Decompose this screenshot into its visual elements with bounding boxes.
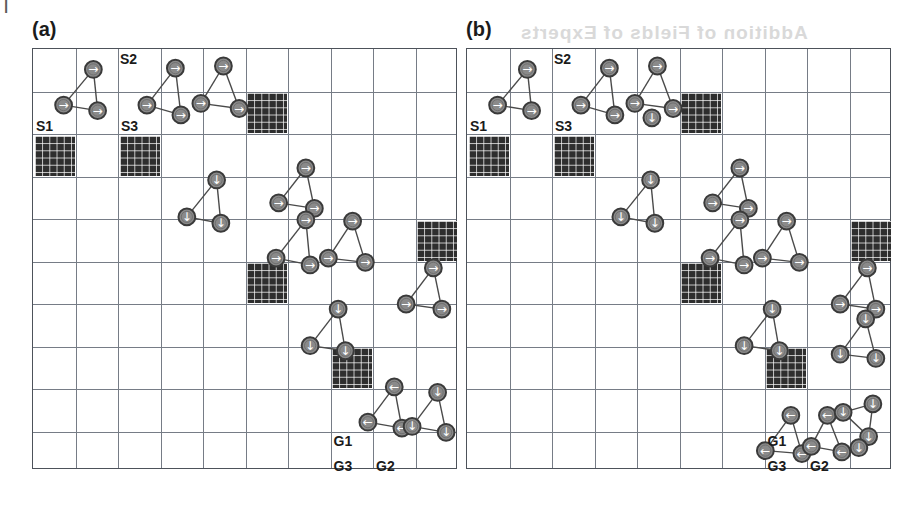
- robot-agent[interactable]: →: [665, 100, 682, 117]
- robot-agent[interactable]: →: [215, 58, 232, 75]
- robot-agent[interactable]: →: [607, 106, 624, 123]
- robot-agent[interactable]: →: [344, 213, 361, 230]
- robot-heading-arrow-icon: →: [493, 98, 503, 112]
- cell-label-g1: G1: [334, 434, 353, 448]
- robot-agent[interactable]: ↓: [330, 301, 347, 318]
- robot-heading-arrow-icon: ↓: [739, 339, 749, 353]
- robot-agent[interactable]: →: [832, 296, 849, 313]
- robot-agent[interactable]: ↓: [178, 208, 195, 225]
- robot-agent[interactable]: →: [167, 60, 184, 77]
- robot-agent[interactable]: ↓: [867, 350, 884, 367]
- robot-agent[interactable]: ↓: [646, 215, 663, 232]
- robot-agent[interactable]: →: [320, 250, 337, 267]
- robot-agent[interactable]: →: [523, 102, 540, 119]
- robot-agent[interactable]: ↓: [864, 395, 881, 412]
- robot-heading-arrow-icon: ↓: [861, 312, 871, 326]
- robot-agent[interactable]: ↓: [302, 337, 319, 354]
- robot-agent[interactable]: ↓: [429, 384, 446, 401]
- robot-heading-arrow-icon: →: [735, 213, 745, 227]
- robot-heading-arrow-icon: →: [610, 108, 620, 122]
- robot-agent[interactable]: →: [573, 97, 590, 114]
- robot-agent[interactable]: →: [601, 60, 618, 77]
- robot-agent[interactable]: →: [231, 100, 248, 117]
- robot-agent[interactable]: ↓: [857, 310, 874, 327]
- robot-agent[interactable]: →: [754, 250, 771, 267]
- robot-heading-arrow-icon: →: [301, 213, 311, 227]
- robot-heading-arrow-icon: →: [604, 61, 614, 75]
- robot-agent[interactable]: →: [649, 58, 666, 75]
- panel-b-grid[interactable]: →→→→→→→→→↓↓↓↓→→→→→→→→→→→→↓↓↓↓↓↓←←←←←←↓↓↓…: [466, 48, 891, 469]
- robot-agent[interactable]: ↓: [771, 342, 788, 359]
- robot-agent[interactable]: →: [489, 97, 506, 114]
- robot-agent[interactable]: →: [139, 97, 156, 114]
- robot-agent[interactable]: ←: [360, 414, 377, 431]
- robot-agent[interactable]: →: [778, 213, 795, 230]
- robot-agent[interactable]: →: [791, 254, 808, 271]
- robot-agent[interactable]: ←: [819, 407, 836, 424]
- robot-heading-arrow-icon: →: [705, 251, 715, 265]
- robot-agent[interactable]: ↓: [612, 208, 629, 225]
- robot-agent[interactable]: ↓: [212, 215, 229, 232]
- cell-label-g2: G2: [810, 459, 829, 473]
- robot-agent[interactable]: ←: [386, 378, 403, 395]
- panel-a-grid-wrap: →→→→→→→→→↓↓↓→→→→→→→→→→→→↓↓↓←←←↓↓↓S2S1S3G…: [32, 48, 457, 469]
- robot-heading-arrow-icon: →: [348, 214, 358, 228]
- robot-heading-arrow-icon: →: [170, 61, 180, 75]
- robot-agent[interactable]: ↓: [764, 301, 781, 318]
- robot-heading-arrow-icon: ↓: [647, 111, 657, 125]
- robot-agent[interactable]: →: [302, 257, 319, 274]
- robot-agent[interactable]: →: [398, 296, 415, 313]
- robot-agent[interactable]: →: [704, 194, 721, 211]
- robot-agent[interactable]: →: [626, 95, 643, 112]
- robot-agent[interactable]: ↓: [850, 439, 867, 456]
- cell-label-s3: S3: [121, 119, 138, 133]
- robot-agent[interactable]: →: [55, 97, 72, 114]
- robot-agent[interactable]: →: [173, 106, 190, 123]
- robot-heading-arrow-icon: ↓: [216, 216, 226, 230]
- robot-heading-arrow-icon: →: [271, 251, 281, 265]
- robot-heading-arrow-icon: ↓: [767, 302, 777, 316]
- robot-agent[interactable]: →: [736, 257, 753, 274]
- robot-agent[interactable]: →: [192, 95, 209, 112]
- robot-agent[interactable]: ↓: [208, 172, 225, 189]
- robot-heading-arrow-icon: ↓: [407, 419, 417, 433]
- robot-agent[interactable]: →: [270, 194, 287, 211]
- robot-agent[interactable]: →: [297, 211, 314, 228]
- robot-agent[interactable]: →: [859, 259, 876, 276]
- robot-agent[interactable]: →: [357, 254, 374, 271]
- robot-agent[interactable]: ←: [833, 444, 850, 461]
- robot-agent[interactable]: →: [519, 61, 536, 78]
- robot-heading-arrow-icon: →: [59, 98, 69, 112]
- robot-agent[interactable]: ↓: [643, 109, 660, 126]
- robot-heading-arrow-icon: ←: [837, 445, 847, 459]
- robot-heading-arrow-icon: ←: [786, 408, 796, 422]
- robot-agent[interactable]: ↓: [736, 337, 753, 354]
- robot-heading-arrow-icon: →: [234, 102, 244, 116]
- robot-agent[interactable]: ↓: [835, 404, 852, 421]
- robot-agent[interactable]: →: [702, 250, 719, 267]
- robot-heading-arrow-icon: →: [522, 62, 532, 76]
- robot-agent[interactable]: ↓: [438, 424, 455, 441]
- robot-agent[interactable]: ↓: [337, 342, 354, 359]
- robot-heading-arrow-icon: →: [835, 297, 845, 311]
- robot-agent[interactable]: →: [85, 61, 102, 78]
- robot-agent[interactable]: ←: [803, 438, 820, 455]
- robot-heading-arrow-icon: →: [305, 258, 315, 272]
- robot-agent[interactable]: ↓: [642, 172, 659, 189]
- cell-label-g1: G1: [768, 434, 787, 448]
- robot-agent[interactable]: →: [425, 259, 442, 276]
- cell-label-g3: G3: [768, 459, 787, 473]
- robot-agent[interactable]: →: [89, 102, 106, 119]
- robot-agent[interactable]: →: [731, 160, 748, 177]
- panel-a-grid[interactable]: →→→→→→→→→↓↓↓→→→→→→→→→→→→↓↓↓←←←↓↓↓S2S1S3G…: [32, 48, 457, 469]
- robot-agent[interactable]: ↓: [404, 418, 421, 435]
- robot-heading-arrow-icon: ↓: [433, 385, 443, 399]
- robot-agent[interactable]: ←: [782, 407, 799, 424]
- robot-heading-arrow-icon: ↓: [650, 216, 660, 230]
- robot-agent[interactable]: ↓: [832, 346, 849, 363]
- cell-label-s1: S1: [36, 119, 53, 133]
- robot-agent[interactable]: →: [297, 160, 314, 177]
- robot-agent[interactable]: →: [433, 301, 450, 318]
- robot-agent[interactable]: →: [268, 250, 285, 267]
- robot-agent[interactable]: →: [731, 211, 748, 228]
